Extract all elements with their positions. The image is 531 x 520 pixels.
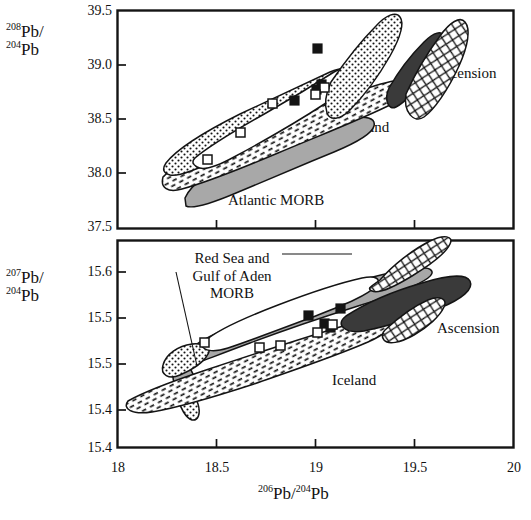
plot-graphics bbox=[0, 0, 531, 520]
marker-open-square bbox=[328, 320, 337, 329]
isotope-ratio-figure: 208Pb/ 204Pb 39.5 39.0 38.5 38.0 37.5 20… bbox=[0, 0, 531, 520]
lower-panel-fields bbox=[126, 237, 470, 420]
marker-open-square bbox=[311, 90, 320, 99]
marker-filled-square bbox=[313, 44, 322, 53]
marker-open-square bbox=[255, 343, 264, 352]
marker-open-square bbox=[203, 155, 212, 164]
marker-open-square bbox=[313, 328, 322, 337]
marker-filled-square bbox=[336, 304, 345, 313]
marker-open-square bbox=[268, 99, 277, 108]
marker-open-square bbox=[200, 338, 209, 347]
marker-filled-square bbox=[290, 96, 299, 105]
marker-open-square bbox=[276, 341, 285, 350]
upper-panel-fields bbox=[162, 14, 468, 207]
marker-open-square bbox=[320, 83, 329, 92]
marker-filled-square bbox=[304, 311, 313, 320]
marker-open-square bbox=[236, 128, 245, 137]
